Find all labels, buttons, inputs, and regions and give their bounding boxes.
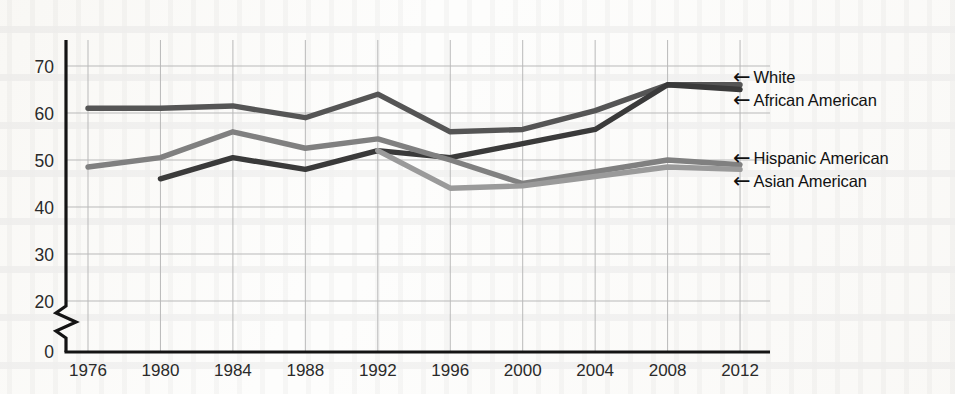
legend-label: White: [754, 68, 796, 87]
legend-label: Asian American: [754, 172, 867, 191]
x-tick-label: 1988: [286, 361, 324, 380]
x-tick-label: 1992: [359, 361, 397, 380]
left-arrow-icon: ←: [733, 171, 751, 192]
left-arrow-icon: ←: [733, 67, 751, 88]
y-axis-tick-labels: 2030405060700: [35, 57, 55, 363]
x-tick-label: 1984: [214, 361, 252, 380]
x-tick-label: 2008: [649, 361, 687, 380]
y-tick-label: 30: [35, 245, 55, 265]
x-tick-label: 1996: [431, 361, 469, 380]
legend-entry-asian-american[interactable]: ← Asian American: [733, 171, 867, 192]
x-tick-label: 2012: [721, 361, 759, 380]
legend-label: African American: [754, 91, 877, 110]
x-axis-tick-labels: 1976198019841988199219962000200420082012: [69, 361, 759, 380]
series-line-hispanic-american: [88, 132, 740, 184]
chart-figure: 2030405060700 19761980198419881992199620…: [0, 0, 955, 394]
legend-entry-african-american[interactable]: ← African American: [733, 90, 877, 111]
y-tick-label: 40: [35, 198, 55, 218]
y-axis-zero-label: 0: [44, 342, 54, 362]
data-series-group: [88, 85, 740, 188]
legend-entry-hispanic-american[interactable]: ← Hispanic American: [733, 148, 889, 169]
series-line-white: [88, 85, 740, 132]
left-arrow-icon: ←: [733, 90, 751, 111]
y-tick-label: 70: [35, 57, 55, 77]
x-tick-label: 2004: [576, 361, 614, 380]
x-tick-label: 1976: [69, 361, 107, 380]
y-axis-with-break: [56, 40, 76, 352]
x-tick-label: 2000: [504, 361, 542, 380]
legend-entry-white[interactable]: ← White: [733, 67, 795, 88]
y-tick-label: 60: [35, 104, 55, 124]
x-tick-label: 1980: [142, 361, 180, 380]
y-tick-label: 50: [35, 151, 55, 171]
y-tick-label: 20: [35, 292, 55, 312]
line-chart-svg: 2030405060700 19761980198419881992199620…: [0, 0, 955, 394]
left-arrow-icon: ←: [733, 148, 751, 169]
legend-label: Hispanic American: [754, 149, 889, 168]
